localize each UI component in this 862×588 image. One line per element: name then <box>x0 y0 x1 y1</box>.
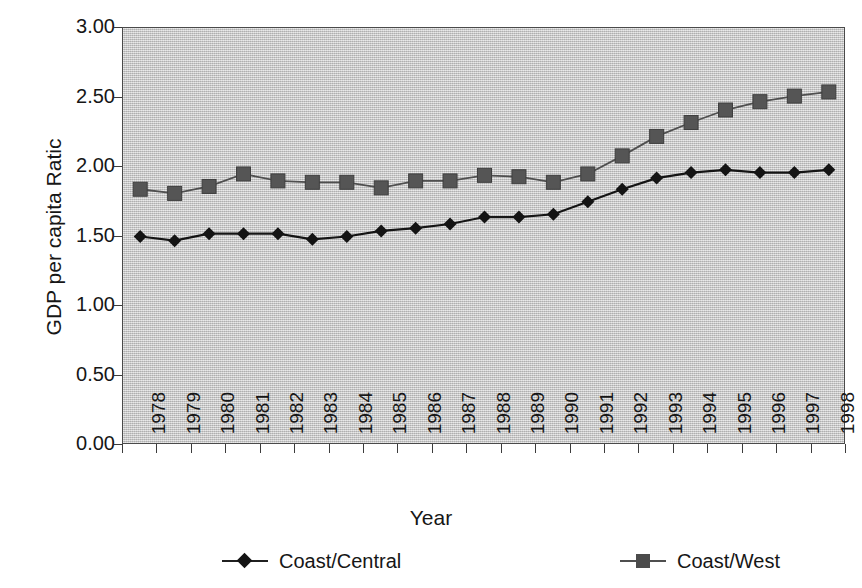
data-point-marker <box>547 208 560 221</box>
legend-label: Coast/Central <box>279 550 401 573</box>
data-point-marker <box>237 227 250 240</box>
data-point-marker <box>444 217 457 230</box>
data-point-marker <box>615 149 629 163</box>
data-point-marker <box>478 211 491 224</box>
series-coast-west <box>133 85 836 200</box>
data-point-marker <box>787 89 801 103</box>
data-point-marker <box>822 163 835 176</box>
x-tick-label: 1997 <box>802 392 824 452</box>
data-point-marker <box>512 170 526 184</box>
data-point-marker <box>375 224 388 237</box>
diamond-marker-icon <box>237 553 253 569</box>
legend-entry-coast-west[interactable]: Coast/West <box>620 548 780 574</box>
data-point-marker <box>788 166 801 179</box>
x-tick-label: 1978 <box>148 392 170 452</box>
data-point-marker <box>340 230 353 243</box>
y-tick-label: 2.50 <box>45 86 115 106</box>
x-tick-label: 1988 <box>493 392 515 452</box>
data-point-marker <box>478 168 492 182</box>
data-point-marker <box>409 222 422 235</box>
data-point-marker <box>133 182 147 196</box>
data-point-marker <box>134 230 147 243</box>
x-tick-label: 1981 <box>252 392 274 452</box>
x-tick-label: 1980 <box>217 392 239 452</box>
data-point-marker <box>271 227 284 240</box>
data-point-marker <box>581 167 595 181</box>
x-tick-label: 1995 <box>734 392 756 452</box>
x-tick-label: 1996 <box>768 392 790 452</box>
data-point-marker <box>616 183 629 196</box>
data-point-marker <box>650 129 664 143</box>
x-tick-label: 1986 <box>424 392 446 452</box>
y-tick-label: 1.50 <box>45 225 115 245</box>
x-tick-label: 1991 <box>596 392 618 452</box>
data-point-marker <box>684 116 698 130</box>
x-tick-label: 1982 <box>286 392 308 452</box>
y-tick-label: 0.00 <box>45 433 115 453</box>
legend-label: Coast/West <box>677 550 780 573</box>
data-point-marker <box>168 234 181 247</box>
data-point-marker <box>719 163 732 176</box>
y-tick-label: 1.00 <box>45 294 115 314</box>
data-point-marker <box>271 174 285 188</box>
chart-figure: GDP per capita Ratic 3.002.502.001.501.0… <box>0 0 862 588</box>
plot-area <box>122 27 845 444</box>
data-point-marker <box>822 85 836 99</box>
x-tick-label: 1984 <box>355 392 377 452</box>
data-point-marker <box>753 95 767 109</box>
x-tick-label: 1998 <box>837 392 859 452</box>
data-point-marker <box>443 174 457 188</box>
data-point-marker <box>305 175 319 189</box>
data-point-marker <box>719 103 733 117</box>
data-point-marker <box>374 181 388 195</box>
y-tick-label: 2.00 <box>45 155 115 175</box>
data-point-marker <box>685 166 698 179</box>
data-point-marker <box>546 175 560 189</box>
data-point-marker <box>237 167 251 181</box>
legend-entry-coast-central[interactable]: Coast/Central <box>222 548 401 574</box>
series-layer <box>123 28 845 444</box>
x-tick-label: 1990 <box>561 392 583 452</box>
data-point-marker <box>512 211 525 224</box>
data-point-marker <box>650 172 663 185</box>
legend-line <box>620 560 666 562</box>
x-tick-label: 1994 <box>699 392 721 452</box>
chart-legend: Coast/CentralCoast/West <box>0 548 862 578</box>
x-tick-mark <box>122 444 123 453</box>
data-point-marker <box>340 175 354 189</box>
y-tick-label: 3.00 <box>45 16 115 36</box>
x-tick-label: 1989 <box>527 392 549 452</box>
x-axis-title: Year <box>0 506 862 530</box>
data-point-marker <box>306 233 319 246</box>
data-point-marker <box>203 227 216 240</box>
data-point-marker <box>409 174 423 188</box>
y-axis-ticks: 3.002.502.001.501.000.500.00 <box>45 0 115 470</box>
legend-line <box>222 560 268 562</box>
square-marker-icon <box>636 554 650 568</box>
x-tick-label: 1987 <box>458 392 480 452</box>
x-tick-label: 1992 <box>630 392 652 452</box>
x-tick-label: 1985 <box>389 392 411 452</box>
data-point-marker <box>168 186 182 200</box>
y-tick-label: 0.50 <box>45 364 115 384</box>
x-tick-label: 1983 <box>320 392 342 452</box>
x-tick-label: 1979 <box>183 392 205 452</box>
data-point-marker <box>202 179 216 193</box>
data-point-marker <box>753 166 766 179</box>
data-point-marker <box>581 195 594 208</box>
x-tick-label: 1993 <box>665 392 687 452</box>
